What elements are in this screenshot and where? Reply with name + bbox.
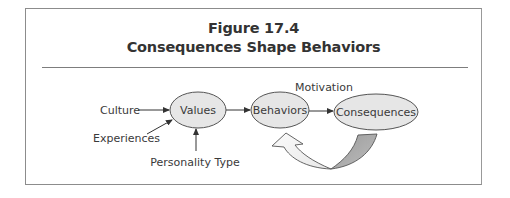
consequences-diagram: Values Behaviors Consequences Culture Ex… <box>0 0 510 198</box>
node-consequences-label: Consequences <box>336 106 416 119</box>
node-values: Values <box>170 92 226 128</box>
node-consequences: Consequences <box>334 94 418 130</box>
node-behaviors: Behaviors <box>251 92 309 128</box>
motivation-label: Motivation <box>295 81 353 94</box>
input-experiences-label: Experiences <box>93 132 160 145</box>
input-personality-type-label: Personality Type <box>150 156 240 169</box>
feedback-arrow-consequences-to-behaviors <box>272 133 377 169</box>
node-behaviors-label: Behaviors <box>253 104 308 117</box>
input-culture-label: Culture <box>100 104 140 117</box>
node-values-label: Values <box>180 104 216 117</box>
